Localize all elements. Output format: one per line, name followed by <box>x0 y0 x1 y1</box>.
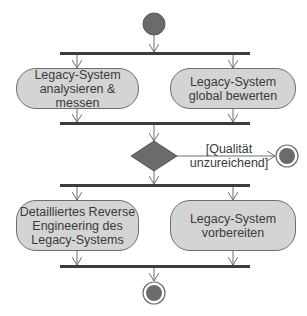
activity-global-evaluate: Legacy-System global bewerten <box>170 68 296 109</box>
join-bar-2 <box>60 265 250 268</box>
decision-guard-label: [Qualität unzureichend] <box>186 142 272 170</box>
final-node-bottom-inner <box>146 285 162 301</box>
final-node-right-inner <box>279 148 295 164</box>
activity-prepare-system: Legacy-System vorbereiten <box>170 200 296 251</box>
join-bar-1 <box>60 122 250 125</box>
fork-bar-2 <box>60 184 250 187</box>
decision-node <box>131 141 177 171</box>
fork-bar-1 <box>60 52 250 55</box>
activity-analyze-measure: Legacy-System analysieren & messen <box>16 68 139 109</box>
initial-node <box>143 13 165 35</box>
activity-reverse-engineering: Detailliertes Reverse Engineering des Le… <box>16 200 139 251</box>
